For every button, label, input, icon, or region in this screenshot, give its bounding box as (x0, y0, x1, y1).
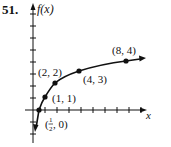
label-half-rest: , 0) (53, 118, 68, 131)
x-axis-label: x (145, 109, 151, 121)
label-point-4-3: (4, 3) (83, 73, 107, 86)
point-1-1 (42, 94, 47, 99)
curve-start-arrow-icon (33, 124, 39, 132)
problem-number: 51. (2, 2, 18, 17)
x-axis: x (25, 107, 151, 121)
point-2-2 (52, 80, 57, 85)
point-4-3 (76, 68, 81, 73)
label-point-1-1: (1, 1) (52, 92, 76, 105)
function-graph: 51. f(x) (0, 0, 171, 147)
y-axis-arrow-icon (31, 3, 36, 10)
curve-end-arrow-icon (139, 56, 146, 62)
point-half-0 (36, 107, 41, 112)
y-axis-label: f(x) (37, 2, 54, 16)
point-8-4 (123, 58, 128, 63)
label-point-8-4: (8, 4) (112, 44, 136, 57)
label-point-half-0: ( 1 2 , 0) (45, 116, 68, 133)
label-point-2-2: (2, 2) (38, 66, 62, 79)
